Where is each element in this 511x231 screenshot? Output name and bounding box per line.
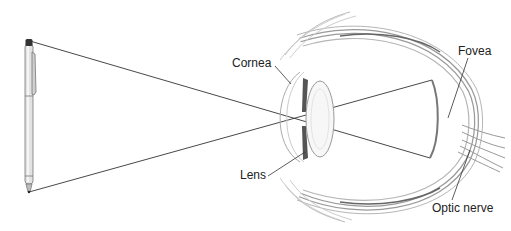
pen-object [25,39,36,193]
leader-lines [268,58,470,200]
label-optic-nerve: Optic nerve [432,201,493,215]
retina [430,80,438,158]
eye-diagram [0,0,511,231]
lens [306,81,334,157]
label-fovea: Fovea [458,44,491,58]
label-lens: Lens [240,168,266,182]
light-rays [29,41,432,192]
label-cornea: Cornea [232,56,271,70]
